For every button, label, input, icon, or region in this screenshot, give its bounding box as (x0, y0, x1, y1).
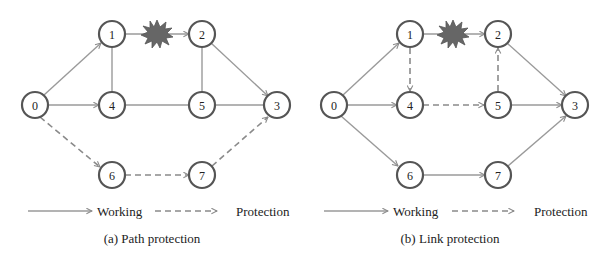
caption: (b) Link protection (401, 231, 500, 246)
node-1: 1 (397, 21, 423, 47)
svg-text:7: 7 (199, 169, 205, 183)
node-2: 2 (485, 21, 511, 47)
svg-text:5: 5 (495, 99, 501, 113)
node-7: 7 (485, 162, 511, 188)
legend-protection-label: Protection (534, 204, 588, 219)
link-failure-icon (141, 20, 173, 48)
node-0: 0 (321, 92, 347, 118)
working-link-2-3 (211, 43, 268, 96)
node-4: 4 (397, 92, 423, 118)
protection-link-0-6 (40, 117, 100, 167)
link-0-6 (341, 116, 398, 166)
working-link-2-3 (507, 43, 566, 96)
legend-working-label: Working (97, 204, 143, 219)
node-4: 4 (99, 92, 125, 118)
panel-link-protection: 0 1 2 3 4 5 6 7 Working Protection (b) L… (321, 20, 588, 246)
working-link-0-1 (343, 43, 399, 95)
link-failure-icon (437, 20, 469, 48)
protection-diagrams: 0 1 2 3 4 5 6 7 Working Protection (a) P… (0, 0, 609, 258)
legend-working-label: Working (393, 204, 439, 219)
svg-text:5: 5 (199, 99, 205, 113)
svg-text:7: 7 (495, 169, 501, 183)
legend: Working Protection (28, 204, 290, 219)
protection-link-7-3 (212, 117, 268, 166)
svg-text:4: 4 (407, 99, 413, 113)
node-5: 5 (485, 92, 511, 118)
svg-text:6: 6 (109, 169, 115, 183)
node-3: 3 (264, 92, 290, 118)
svg-text:2: 2 (199, 28, 205, 42)
node-6: 6 (397, 162, 423, 188)
legend: Working Protection (324, 204, 588, 219)
svg-text:2: 2 (495, 28, 501, 42)
legend-protection-label: Protection (236, 204, 290, 219)
svg-text:3: 3 (274, 99, 280, 113)
node-5: 5 (189, 92, 215, 118)
node-7: 7 (189, 162, 215, 188)
node-1: 1 (99, 21, 125, 47)
panel-path-protection: 0 1 2 3 4 5 6 7 Working Protection (a) P… (22, 20, 290, 246)
svg-text:0: 0 (331, 99, 337, 113)
caption: (a) Path protection (104, 231, 201, 246)
svg-text:4: 4 (109, 99, 115, 113)
svg-text:6: 6 (407, 169, 413, 183)
svg-text:3: 3 (572, 99, 578, 113)
node-6: 6 (99, 162, 125, 188)
node-2: 2 (189, 21, 215, 47)
svg-text:0: 0 (32, 99, 38, 113)
working-link-0-1 (44, 43, 101, 95)
svg-text:1: 1 (109, 28, 115, 42)
link-7-3 (508, 116, 566, 166)
node-3: 3 (562, 92, 588, 118)
svg-text:1: 1 (407, 28, 413, 42)
node-0: 0 (22, 92, 48, 118)
